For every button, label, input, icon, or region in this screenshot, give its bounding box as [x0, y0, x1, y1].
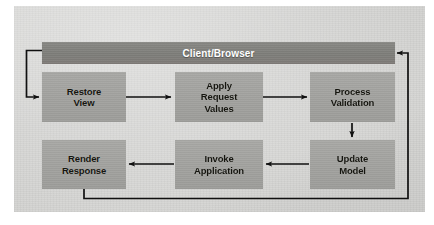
node-apply-request-values-label: Apply Request Values: [201, 80, 237, 114]
client-browser-bar: Client/Browser: [42, 42, 395, 64]
node-invoke-application-label: Invoke Application: [194, 153, 244, 176]
edge-client-to-restore-view: [27, 51, 43, 98]
node-invoke-application[interactable]: Invoke Application: [175, 140, 263, 189]
client-browser-label: Client/Browser: [183, 48, 255, 59]
node-apply-request-values[interactable]: Apply Request Values: [175, 72, 263, 122]
diagram-canvas: Client/Browser Restore View Apply Reques…: [0, 0, 434, 225]
node-render-response[interactable]: Render Response: [42, 140, 126, 189]
node-restore-view-label: Restore View: [67, 86, 101, 109]
node-process-validation[interactable]: Process Validation: [310, 72, 395, 122]
node-render-response-label: Render Response: [62, 153, 106, 176]
node-update-model[interactable]: Update Model: [310, 140, 395, 189]
node-update-model-label: Update Model: [337, 153, 368, 176]
node-process-validation-label: Process Validation: [331, 86, 374, 109]
node-restore-view[interactable]: Restore View: [42, 72, 126, 122]
